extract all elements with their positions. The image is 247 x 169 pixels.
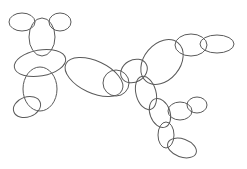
ellipse-shape: [165, 134, 199, 161]
ellipse-shape: [132, 31, 192, 92]
ellipse-shape: [59, 49, 129, 104]
ellipse-shape: [29, 18, 55, 56]
ellipse-drawing: [0, 0, 247, 169]
ellipse-shape: [49, 13, 71, 31]
ellipse-shape: [200, 35, 234, 53]
ellipse-shape: [187, 97, 207, 113]
ellipse-shape: [103, 70, 129, 96]
ellipse-shape: [132, 74, 160, 112]
ellipse-shape: [168, 102, 192, 120]
ellipse-shape: [145, 95, 174, 130]
ellipse-shape: [12, 46, 68, 81]
ellipse-shape: [23, 67, 57, 111]
ellipse-shape: [9, 13, 35, 31]
ellipse-shape: [10, 93, 43, 121]
ellipse-group: [9, 13, 234, 162]
ellipse-shape: [158, 122, 174, 148]
